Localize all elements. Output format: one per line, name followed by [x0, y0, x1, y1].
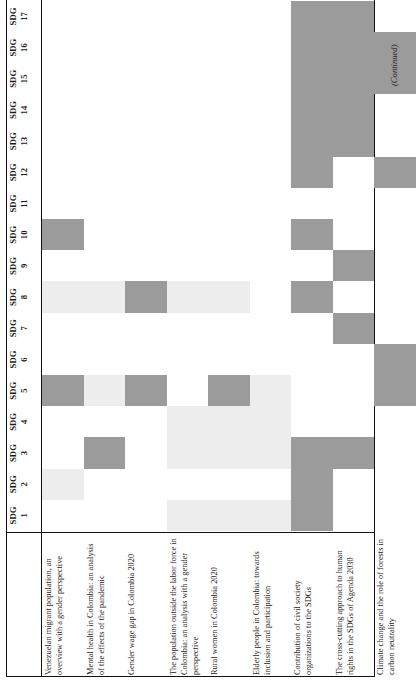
column-header-sdg-12: SDG12: [8, 157, 40, 188]
heatmap-cell-r1-sdg16: [42, 32, 84, 63]
column-header-sdg-5: SDG5: [8, 375, 40, 406]
heatmap-cell-r5-sdg2: [208, 469, 250, 500]
column-header-prefix: SDG: [8, 344, 19, 375]
heatmap-cell-r5-sdg1: [208, 500, 250, 531]
column-header-number: 16: [19, 32, 30, 63]
heatmap-cell-r2-sdg16: [84, 32, 126, 63]
heatmap-cell-r1-sdg10: [42, 219, 84, 250]
heatmap-cell-r4-sdg1: [167, 500, 209, 531]
heatmap-cell-r2-sdg17: [84, 1, 126, 32]
heatmap-cell-r2-sdg1: [84, 500, 126, 531]
sdg-heatmap-grid: [42, 0, 374, 531]
row-label-text: The population outside the labor force i…: [167, 537, 201, 675]
heatmap-cell-r9-sdg4: [374, 406, 416, 437]
heatmap-cell-r9-sdg1: [374, 500, 416, 531]
continued-note: (Continued): [389, 44, 399, 86]
heatmap-cell-r4-sdg13: [167, 126, 209, 157]
column-header-prefix: SDG: [8, 94, 19, 125]
heatmap-cell-r2-sdg5: [84, 375, 126, 406]
table-row: [42, 0, 84, 531]
column-header-prefix: SDG: [8, 157, 19, 188]
column-header-prefix: SDG: [8, 188, 19, 219]
row-label-text: Venezuelan migrant population, an overvi…: [42, 537, 65, 675]
heatmap-cell-r4-sdg4: [167, 406, 209, 437]
heatmap-cell-r5-sdg15: [208, 63, 250, 94]
heatmap-cell-r3-sdg1: [125, 500, 167, 531]
heatmap-cell-r2-sdg10: [84, 219, 126, 250]
heatmap-cell-r7-sdg4: [291, 406, 333, 437]
heatmap-cell-r9-sdg11: [374, 188, 416, 219]
heatmap-cell-r3-sdg9: [125, 250, 167, 281]
column-header-prefix: SDG: [8, 406, 19, 437]
heatmap-cell-r9-sdg7: [374, 313, 416, 344]
heatmap-cell-r2-sdg9: [84, 250, 126, 281]
heatmap-cell-r5-sdg16: [208, 32, 250, 63]
heatmap-cell-r7-sdg13: [291, 126, 333, 157]
heatmap-cell-r5-sdg17: [208, 1, 250, 32]
heatmap-cell-r6-sdg4: [250, 406, 292, 437]
column-header-sdg-10: SDG10: [8, 219, 40, 250]
row-label-text: Mental health in Colombia: an analysis o…: [84, 537, 107, 675]
heatmap-cell-r7-sdg17: [291, 1, 333, 32]
heatmap-cell-r6-sdg3: [250, 437, 292, 468]
heatmap-cell-r8-sdg17: [333, 1, 375, 32]
row-label: Venezuelan migrant population, an overvi…: [42, 531, 84, 675]
heatmap-cell-r6-sdg10: [250, 219, 292, 250]
row-label-text: Climate change and the role of forests i…: [374, 537, 397, 675]
heatmap-cell-r2-sdg14: [84, 94, 126, 125]
column-header-sdg-2: SDG2: [8, 469, 40, 500]
heatmap-cell-r3-sdg16: [125, 32, 167, 63]
column-header-number: 6: [19, 344, 30, 375]
column-header-prefix: SDG: [8, 32, 19, 63]
heatmap-cell-r1-sdg13: [42, 126, 84, 157]
column-header-prefix: SDG: [8, 313, 19, 344]
heatmap-cell-r2-sdg2: [84, 469, 126, 500]
heatmap-cell-r3-sdg12: [125, 157, 167, 188]
heatmap-cell-r7-sdg15: [291, 63, 333, 94]
table-row-labels: Venezuelan migrant population, an overvi…: [42, 531, 374, 675]
table-row: [250, 0, 292, 531]
row-label-text: Contribution of civil society organizati…: [291, 537, 314, 675]
heatmap-cell-r5-sdg4: [208, 406, 250, 437]
column-header-number: 5: [19, 375, 30, 406]
heatmap-cell-r2-sdg6: [84, 344, 126, 375]
column-header-number: 14: [19, 94, 30, 125]
heatmap-cell-r7-sdg11: [291, 188, 333, 219]
heatmap-cell-r6-sdg17: [250, 1, 292, 32]
heatmap-cell-r1-sdg9: [42, 250, 84, 281]
heatmap-cell-r8-sdg12: [333, 157, 375, 188]
table-row: [167, 0, 209, 531]
heatmap-cell-r1-sdg6: [42, 344, 84, 375]
column-header-number: 10: [19, 219, 30, 250]
column-header-number: 3: [19, 437, 30, 468]
heatmap-cell-r8-sdg15: [333, 63, 375, 94]
heatmap-cell-r8-sdg13: [333, 126, 375, 157]
heatmap-cell-r1-sdg15: [42, 63, 84, 94]
heatmap-cell-r1-sdg17: [42, 1, 84, 32]
table-row: [291, 0, 333, 531]
column-header-number: 1: [19, 500, 30, 531]
heatmap-cell-r1-sdg1: [42, 500, 84, 531]
table-row: [84, 0, 126, 531]
heatmap-cell-r9-sdg6: [374, 344, 416, 375]
heatmap-cell-r3-sdg11: [125, 188, 167, 219]
heatmap-cell-r5-sdg3: [208, 437, 250, 468]
heatmap-cell-r1-sdg3: [42, 437, 84, 468]
column-header-sdg-17: SDG17: [8, 1, 40, 32]
heatmap-cell-r4-sdg3: [167, 437, 209, 468]
heatmap-cell-r8-sdg1: [333, 500, 375, 531]
column-header-number: 7: [19, 313, 30, 344]
heatmap-cell-r3-sdg2: [125, 469, 167, 500]
column-header-sdg-9: SDG9: [8, 250, 40, 281]
heatmap-cell-r8-sdg6: [333, 344, 375, 375]
heatmap-cell-r3-sdg7: [125, 313, 167, 344]
heatmap-cell-r1-sdg14: [42, 94, 84, 125]
heatmap-cell-r3-sdg8: [125, 282, 167, 313]
heatmap-cell-r4-sdg11: [167, 188, 209, 219]
column-header-number: 2: [19, 469, 30, 500]
heatmap-cell-r2-sdg13: [84, 126, 126, 157]
heatmap-cell-r7-sdg8: [291, 282, 333, 313]
column-header-number: 15: [19, 63, 30, 94]
table-rule-top: [6, 0, 7, 677]
